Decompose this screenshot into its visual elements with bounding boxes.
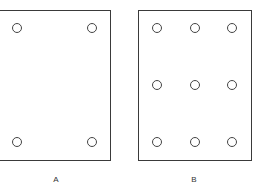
hole-circle-icon <box>190 80 200 90</box>
hole-circle-icon <box>227 80 237 90</box>
hole-circle-icon <box>152 80 162 90</box>
hole-circle-icon <box>190 23 200 33</box>
hole-circle-icon <box>190 137 200 147</box>
hole-circle-icon <box>87 137 97 147</box>
hole-circle-icon <box>12 137 22 147</box>
hole-circle-icon <box>87 23 97 33</box>
hole-circle-icon <box>12 23 22 33</box>
panel-a-label: A <box>46 175 66 184</box>
hole-circle-icon <box>227 137 237 147</box>
panel-b-label: B <box>184 175 204 184</box>
hole-circle-icon <box>152 23 162 33</box>
hole-circle-icon <box>227 23 237 33</box>
hole-circle-icon <box>152 137 162 147</box>
